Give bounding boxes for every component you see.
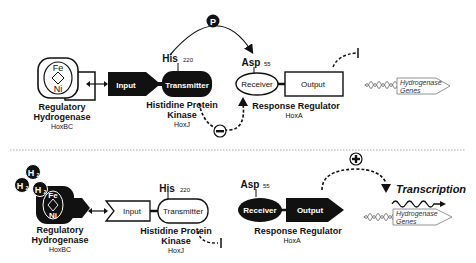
metal-fe: Fe (53, 63, 64, 73)
svg-text:Input: Input (123, 207, 142, 216)
svg-text:Genes: Genes (396, 218, 417, 225)
phosphate-icon: P (207, 15, 220, 28)
hydrogenase-gene: HoxBC (49, 246, 71, 253)
kinase-label-1: Histidine Protein (146, 100, 218, 110)
svg-text:P: P (210, 17, 216, 27)
svg-text:H: H (28, 168, 35, 178)
transcription-label: Transcription (396, 183, 466, 195)
asp-residue-number: 55 (263, 183, 270, 189)
signaling-diagram: Fe Ni Regulatory Hydrogenase HoxBC Input… (0, 0, 476, 263)
hydrogenase-icon: Fe Ni (38, 58, 95, 100)
svg-text:Output: Output (297, 206, 324, 215)
kinase-shape: Input Transmitter (108, 71, 212, 97)
svg-text:2: 2 (37, 172, 40, 178)
svg-text:Output: Output (301, 80, 326, 89)
double-arrow-icon (88, 208, 108, 214)
kinase-gene: HoxJ (168, 247, 184, 254)
hydrogenase-label-2: Hydrogenase (31, 235, 88, 245)
regulator-gene: HoxA (285, 112, 302, 119)
mrna-transcript-icon (392, 201, 440, 207)
svg-text:H: H (17, 181, 24, 191)
his-residue: His (159, 183, 175, 194)
inhibition-icon (214, 125, 226, 137)
hydrogenase-genes-icon: Hydrogenase Genes (365, 78, 450, 94)
svg-text:2: 2 (26, 185, 29, 191)
svg-text:Receiver: Receiver (243, 206, 276, 215)
regulator-gene: HoxA (283, 237, 300, 244)
hydrogenase-genes-icon: Hydrogenase Genes (364, 209, 452, 225)
svg-text:Genes: Genes (400, 87, 421, 94)
hydrogenase-label-1: Regulatory (38, 102, 85, 112)
kinase-transmitter-domain: Transmitter (165, 81, 209, 90)
his-residue-number: 220 (183, 57, 194, 63)
kinase-label-1: Histidine Protein (140, 226, 212, 236)
svg-text:Transmitter: Transmitter (163, 207, 203, 216)
phosphotransfer-arrow (170, 26, 252, 55)
hydrogenase-active-icon: Fe Ni H 2 (33, 182, 91, 225)
asp-residue: Asp (242, 57, 261, 68)
svg-text:2: 2 (44, 189, 47, 195)
double-arrow-icon (86, 81, 108, 87)
top-panel: Fe Ni Regulatory Hydrogenase HoxBC Input… (33, 15, 450, 138)
bottom-panel: H 2 H 2 Fe Ni H 2 Regulatory Hydrogenase… (15, 153, 467, 254)
regulator-label: Response Regulator (252, 101, 340, 111)
asp-residue: Asp (241, 179, 260, 190)
kinase-gene: HoxJ (174, 121, 190, 128)
hydrogenase-label-2: Hydrogenase (33, 112, 90, 122)
kinase-label-2: Kinase (161, 236, 191, 246)
kinase-label-2: Kinase (167, 110, 197, 120)
blocked-activation-line (333, 53, 356, 67)
svg-text:Fe: Fe (48, 191, 58, 200)
hydrogenase-label-1: Regulatory (36, 225, 83, 235)
activation-icon (350, 153, 362, 165)
asp-residue-number: 55 (264, 61, 271, 67)
kinase-input-domain: Input (116, 81, 136, 90)
regulator-label: Response Regulator (254, 226, 342, 236)
svg-text:Ni: Ni (49, 211, 57, 220)
activation-arrow (322, 169, 386, 190)
kinase-inactive-shape: Input Transmitter (106, 199, 208, 223)
svg-text:Receiver: Receiver (241, 80, 273, 89)
svg-text:H: H (35, 185, 42, 195)
hydrogenase-gene: HoxBC (51, 123, 73, 130)
metal-ni: Ni (54, 84, 63, 94)
his-residue-number: 220 (180, 187, 191, 193)
